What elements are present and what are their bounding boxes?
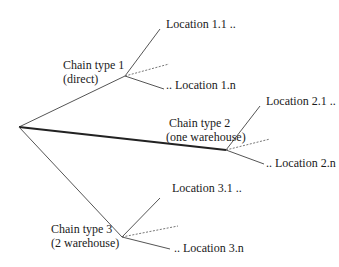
- chain2-title: Chain type 2: [166, 116, 246, 130]
- chain3-subtitle: (2 warehouse): [51, 236, 119, 250]
- edge-chain1-dotted: [125, 64, 169, 76]
- edge-root-chain3: [19, 127, 122, 237]
- chain1-title: Chain type 1: [63, 58, 124, 72]
- chain1-subtitle: (direct): [63, 72, 124, 86]
- edge-chain3-dotted: [122, 226, 178, 237]
- chain2-subtitle: (one warehouse): [166, 130, 246, 144]
- location-2-n-label: .. Location 2.n: [266, 156, 336, 170]
- location-2-1-label: Location 2.1 ..: [266, 94, 336, 108]
- edge-chain1-last: [125, 76, 164, 89]
- location-1-1-label: Location 1.1 ..: [166, 17, 236, 31]
- supply-chain-tree-diagram: Chain type 1 (direct) Location 1.1 .. ..…: [0, 0, 339, 267]
- location-1-n-label: .. Location 1.n: [166, 78, 236, 92]
- edge-chain3-last: [122, 237, 170, 249]
- chain3-label: Chain type 3 (2 warehouse): [51, 222, 119, 250]
- location-3-1-label: Location 3.1 ..: [172, 181, 242, 195]
- edge-chain1-first: [125, 29, 160, 76]
- edge-chain2-last: [226, 150, 264, 164]
- location-3-n-label: .. Location 3.n: [174, 241, 244, 255]
- chain1-label: Chain type 1 (direct): [63, 58, 124, 86]
- chain2-label: Chain type 2 (one warehouse): [166, 116, 246, 144]
- chain3-title: Chain type 3: [51, 222, 119, 236]
